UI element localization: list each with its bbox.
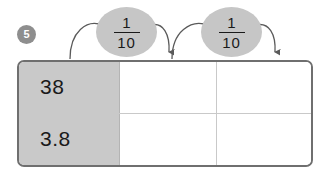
- row-start-value-38: 38: [19, 62, 120, 113]
- fraction-numerator: 1: [122, 15, 130, 31]
- fraction-denominator: 10: [222, 35, 241, 50]
- question-number-badge: 5: [17, 25, 36, 44]
- answer-grid: 38 3.8: [17, 60, 313, 167]
- row-start-value-3-8: 3.8: [19, 114, 120, 166]
- answer-box-row1-col1[interactable]: [120, 62, 217, 113]
- answer-box-row2-col2[interactable]: [217, 114, 311, 166]
- curved-arrow-2-tail: [172, 23, 204, 59]
- answer-box-row2-col1[interactable]: [120, 114, 217, 166]
- table-row: 38: [19, 62, 311, 114]
- fraction-one-tenth: 1 10: [114, 15, 140, 50]
- worksheet-question: 5 1 10 1 10 38: [0, 0, 331, 179]
- fraction-one-tenth: 1 10: [219, 15, 245, 50]
- table-row: 3.8: [19, 114, 311, 166]
- answer-box-row1-col2[interactable]: [217, 62, 311, 113]
- fraction-bubble-2: 1 10: [201, 7, 262, 57]
- fraction-denominator: 10: [117, 35, 136, 50]
- fraction-numerator: 1: [227, 15, 235, 31]
- curved-arrow-1-tail: [70, 23, 99, 59]
- fraction-bubble-1: 1 10: [96, 7, 157, 57]
- fraction-bar: [114, 32, 140, 33]
- fraction-bar: [219, 32, 245, 33]
